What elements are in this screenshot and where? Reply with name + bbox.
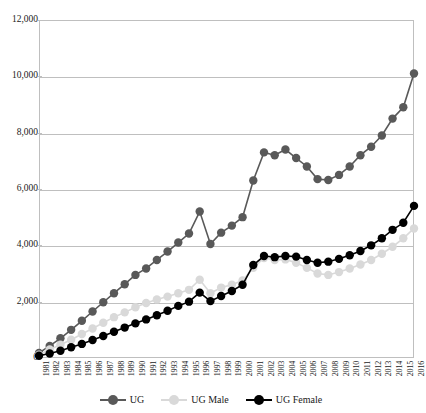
x-axis: 1981198219831984198519861987198819891990… <box>39 359 414 393</box>
x-axis-tick-label: 1988 <box>118 361 126 376</box>
data-point-marker <box>196 276 204 284</box>
y-axis-tick-label: 0 <box>2 353 38 363</box>
data-point-marker <box>206 289 214 297</box>
x-axis-tick-label: 1999 <box>235 361 243 376</box>
data-point-marker <box>388 243 396 251</box>
data-point-marker <box>410 69 418 77</box>
data-point-marker <box>185 286 193 294</box>
data-point-marker <box>88 324 96 332</box>
data-point-marker <box>281 145 289 153</box>
data-point-marker <box>399 219 407 227</box>
data-point-marker <box>185 229 193 237</box>
data-point-marker <box>121 323 129 331</box>
y-axis-tick-label: 4,000 <box>2 240 38 250</box>
series-ug <box>35 69 418 357</box>
data-point-marker <box>410 224 418 232</box>
x-axis-tick-label: 1991 <box>150 361 158 376</box>
data-point-marker <box>196 288 204 296</box>
legend-label: UG <box>130 394 144 405</box>
y-axis-tick-label: 10,000 <box>2 71 38 81</box>
legend-item-ug[interactable]: UG <box>100 394 144 405</box>
data-point-marker <box>324 257 332 265</box>
data-point-marker <box>217 283 225 291</box>
x-axis-tick-label: 1990 <box>139 361 147 376</box>
data-point-marker <box>367 143 375 151</box>
data-point-marker <box>99 332 107 340</box>
data-point-marker <box>99 319 107 327</box>
data-point-marker <box>99 298 107 306</box>
data-point-marker <box>228 221 236 229</box>
chart-data-layer <box>39 20 414 358</box>
x-axis-tick-label: 2000 <box>246 361 254 376</box>
data-point-marker <box>249 176 257 184</box>
y-axis-tick-label: 8,000 <box>2 128 38 138</box>
legend-label: UG Male <box>191 394 229 405</box>
x-axis-tick-label: 1993 <box>171 361 179 376</box>
data-point-marker <box>303 256 311 264</box>
data-point-marker <box>313 175 321 183</box>
x-axis-tick-label: 1995 <box>193 361 201 376</box>
x-axis-tick-label: 1984 <box>75 361 83 376</box>
data-point-marker <box>303 162 311 170</box>
x-axis-tick-label: 1997 <box>214 361 222 376</box>
data-point-marker <box>388 114 396 122</box>
x-axis-tick-label: 2015 <box>407 361 415 376</box>
data-point-marker <box>131 271 139 279</box>
chart-title <box>0 0 422 3</box>
x-axis-tick-label: 2006 <box>310 361 318 376</box>
data-point-marker <box>367 256 375 264</box>
data-point-marker <box>346 251 354 259</box>
y-axis: 02,0004,0006,0008,00010,00012,000 <box>0 20 38 358</box>
data-point-marker <box>131 319 139 327</box>
data-point-marker <box>174 302 182 310</box>
data-point-marker <box>388 226 396 234</box>
data-point-marker <box>303 264 311 272</box>
x-axis-tick-label: 2008 <box>332 361 340 376</box>
x-axis-tick-label: 1998 <box>225 361 233 376</box>
data-point-marker <box>163 247 171 255</box>
data-point-marker <box>185 297 193 305</box>
data-point-marker <box>153 295 161 303</box>
data-point-marker <box>367 241 375 249</box>
x-axis-tick-label: 1981 <box>43 361 51 376</box>
data-point-marker <box>292 252 300 260</box>
data-point-marker <box>121 280 129 288</box>
data-point-marker <box>110 289 118 297</box>
data-point-marker <box>142 299 150 307</box>
data-point-marker <box>206 297 214 305</box>
data-point-marker <box>174 238 182 246</box>
data-point-marker <box>335 268 343 276</box>
data-point-marker <box>78 340 86 348</box>
x-axis-tick-label: 2003 <box>278 361 286 376</box>
data-point-marker <box>238 281 246 289</box>
legend-marker-icon <box>100 394 126 405</box>
x-axis-tick-label: 2013 <box>385 361 393 376</box>
data-point-marker <box>313 259 321 267</box>
data-point-marker <box>399 234 407 242</box>
data-point-marker <box>67 343 75 351</box>
x-axis-tick-label: 2004 <box>289 361 297 376</box>
data-point-marker <box>378 131 386 139</box>
x-axis-tick-label: 1983 <box>64 361 72 376</box>
legend-item-ug-male[interactable]: UG Male <box>161 394 229 405</box>
data-point-marker <box>346 162 354 170</box>
data-point-marker <box>56 346 64 354</box>
data-point-marker <box>238 213 246 221</box>
legend-item-ug-female[interactable]: UG Female <box>246 394 322 405</box>
y-axis-tick-label: 6,000 <box>2 184 38 194</box>
y-axis-tick-label: 12,000 <box>2 15 38 25</box>
data-point-marker <box>163 292 171 300</box>
data-point-marker <box>346 264 354 272</box>
data-point-marker <box>399 103 407 111</box>
data-point-marker <box>67 326 75 334</box>
data-point-marker <box>260 252 268 260</box>
x-axis-tick-label: 2009 <box>343 361 351 376</box>
legend-marker-icon <box>246 394 272 405</box>
data-point-marker <box>67 335 75 343</box>
x-axis-tick-label: 2011 <box>364 361 372 376</box>
data-point-marker <box>88 336 96 344</box>
y-axis-tick-label: 2,000 <box>2 297 38 307</box>
x-axis-tick-label: 1994 <box>182 361 190 376</box>
data-point-marker <box>260 148 268 156</box>
